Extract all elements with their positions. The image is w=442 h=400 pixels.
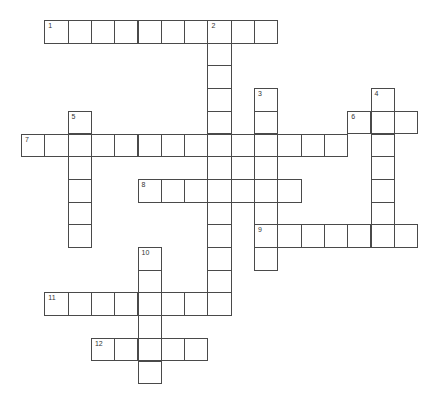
crossword-cell[interactable] [68, 134, 92, 158]
crossword-cell[interactable] [138, 134, 162, 158]
crossword-cell[interactable] [207, 202, 231, 226]
crossword-cell[interactable] [277, 224, 301, 248]
crossword-cell[interactable] [371, 111, 395, 135]
crossword-cell[interactable] [184, 338, 208, 362]
crossword-cell[interactable]: 3 [254, 88, 278, 112]
crossword-cell[interactable]: 1 [44, 20, 68, 44]
crossword-cell[interactable] [91, 292, 115, 316]
crossword-cell[interactable] [277, 134, 301, 158]
crossword-cell[interactable] [184, 179, 208, 203]
crossword-cell[interactable] [394, 111, 418, 135]
crossword-cell[interactable]: 12 [91, 338, 115, 362]
crossword-cell[interactable] [138, 361, 162, 385]
crossword-cell[interactable] [324, 134, 348, 158]
crossword-cell[interactable] [68, 224, 92, 248]
clue-number: 7 [25, 136, 29, 144]
crossword-cell[interactable] [68, 202, 92, 226]
crossword-cell[interactable] [114, 20, 138, 44]
crossword-cell[interactable]: 8 [138, 179, 162, 203]
crossword-cell[interactable] [207, 179, 231, 203]
clue-number: 6 [351, 113, 355, 121]
clue-number: 3 [258, 90, 262, 98]
crossword-cell[interactable] [207, 111, 231, 135]
crossword-cell[interactable]: 10 [138, 247, 162, 271]
crossword-cell[interactable]: 7 [21, 134, 45, 158]
crossword-cell[interactable] [371, 179, 395, 203]
crossword-cell[interactable] [114, 338, 138, 362]
crossword-cell[interactable] [184, 134, 208, 158]
crossword-cell[interactable] [68, 156, 92, 180]
crossword-cell[interactable] [254, 111, 278, 135]
crossword-cell[interactable] [371, 156, 395, 180]
crossword-cell[interactable] [138, 270, 162, 294]
crossword-cell[interactable] [231, 179, 255, 203]
crossword-cell[interactable] [301, 134, 325, 158]
crossword-cell[interactable] [161, 338, 185, 362]
crossword-cell[interactable] [207, 247, 231, 271]
crossword-cell[interactable] [138, 20, 162, 44]
clue-number: 9 [258, 226, 262, 234]
crossword-cell[interactable] [68, 292, 92, 316]
crossword-cell[interactable] [371, 224, 395, 248]
crossword-cell[interactable] [161, 134, 185, 158]
clue-number: 10 [142, 249, 150, 257]
crossword-cell[interactable] [161, 179, 185, 203]
crossword-cell[interactable] [207, 65, 231, 89]
clue-number: 1 [48, 22, 52, 30]
crossword-cell[interactable] [138, 338, 162, 362]
crossword-cell[interactable] [301, 224, 325, 248]
crossword-cell[interactable] [44, 134, 68, 158]
crossword-cell[interactable] [207, 156, 231, 180]
crossword-cell[interactable] [138, 292, 162, 316]
crossword-cell[interactable]: 11 [44, 292, 68, 316]
crossword-cell[interactable] [254, 156, 278, 180]
crossword-cell[interactable] [394, 224, 418, 248]
crossword-cell[interactable] [161, 20, 185, 44]
crossword-cell[interactable]: 4 [371, 88, 395, 112]
crossword-cell[interactable] [184, 292, 208, 316]
crossword-cell[interactable] [207, 43, 231, 67]
crossword-cell[interactable] [91, 20, 115, 44]
crossword-cell[interactable] [254, 134, 278, 158]
crossword-cell[interactable] [161, 292, 185, 316]
crossword-cell[interactable] [207, 292, 231, 316]
crossword-cell[interactable] [91, 134, 115, 158]
crossword-cell[interactable] [68, 20, 92, 44]
crossword-cell[interactable]: 6 [347, 111, 371, 135]
crossword-cell[interactable] [347, 224, 371, 248]
clue-number: 11 [48, 294, 55, 302]
crossword-cell[interactable] [207, 134, 231, 158]
clue-number: 5 [72, 113, 76, 121]
crossword-cell[interactable] [231, 20, 255, 44]
crossword-cell[interactable] [68, 179, 92, 203]
crossword-cell[interactable] [371, 202, 395, 226]
crossword-cell[interactable] [371, 134, 395, 158]
crossword-cell[interactable]: 2 [207, 20, 231, 44]
crossword-cell[interactable] [254, 179, 278, 203]
crossword-cell[interactable] [324, 224, 348, 248]
clue-number: 2 [211, 22, 215, 30]
crossword-cell[interactable]: 9 [254, 224, 278, 248]
crossword-cell[interactable] [207, 270, 231, 294]
crossword-cell[interactable] [114, 292, 138, 316]
crossword-cell[interactable] [254, 20, 278, 44]
crossword-cell[interactable] [231, 134, 255, 158]
clue-number: 4 [375, 90, 379, 98]
crossword-cell[interactable] [207, 88, 231, 112]
clue-number: 12 [95, 340, 103, 348]
crossword-cell[interactable] [277, 179, 301, 203]
crossword-cell[interactable] [138, 315, 162, 339]
crossword-cell[interactable]: 5 [68, 111, 92, 135]
clue-number: 8 [142, 181, 146, 189]
crossword-grid: 123945678101112 [0, 0, 442, 400]
crossword-cell[interactable] [114, 134, 138, 158]
crossword-cell[interactable] [207, 224, 231, 248]
crossword-cell[interactable] [254, 202, 278, 226]
crossword-cell[interactable] [184, 20, 208, 44]
crossword-cell[interactable] [254, 247, 278, 271]
